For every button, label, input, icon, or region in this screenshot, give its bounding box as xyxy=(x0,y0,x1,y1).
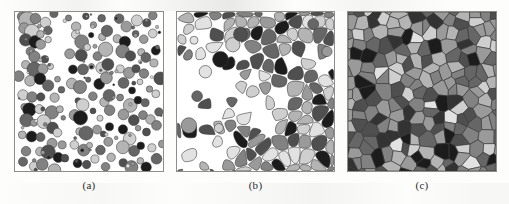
figure-root: (a) (b) (c) xyxy=(0,0,509,204)
caption-panel-a: (a) xyxy=(14,176,164,194)
panel-c-graphic xyxy=(348,12,496,171)
panel-a-graphic xyxy=(15,12,163,171)
panel-a-loose-powder xyxy=(14,11,164,172)
panel-c-final-sintering xyxy=(347,11,497,172)
caption-panel-c: (c) xyxy=(347,176,497,194)
caption-panel-b: (b) xyxy=(176,176,335,194)
scan-noise-top xyxy=(0,0,509,11)
panel-b-intermediate-sintering xyxy=(176,11,335,172)
panel-b-graphic xyxy=(177,12,334,171)
